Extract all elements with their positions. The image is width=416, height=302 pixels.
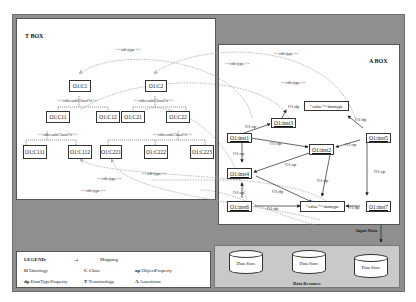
- class-node-c2[interactable]: O1:C2: [145, 80, 167, 92]
- class-node-c112[interactable]: O1:C112: [68, 145, 92, 159]
- dp-label: O1:dp: [348, 205, 359, 210]
- database-icon: [292, 250, 326, 258]
- legend-panel: LEGEND: ⇢ Mapping O Ontology C Class op …: [16, 251, 211, 288]
- class-node-c1[interactable]: O1:C1: [69, 80, 91, 92]
- data-store-2[interactable]: Data Store: [292, 250, 326, 276]
- legend-mapping-arrow-icon: ⇢: [74, 257, 78, 263]
- subclass-label: <<rdfs:subClassOf>>: [134, 98, 173, 103]
- instance-node-inst3[interactable]: O1:inst3: [271, 118, 296, 128]
- input-data-label: Input Data: [356, 228, 377, 233]
- subclass-label: <<rdfs:subClassOf>>: [153, 132, 192, 137]
- subclass-label: <<rdfs:subClassOf>>: [38, 132, 77, 137]
- rdf-type-label: <<rdf:type>>: [281, 80, 305, 85]
- dp-label: O1:dp: [355, 117, 366, 122]
- legend-item-terminology: T Terminology: [84, 279, 114, 284]
- rdf-type-label: <<rdf:type>>: [142, 171, 166, 176]
- op-label: O1:op: [233, 151, 244, 156]
- op-label: O1:op: [270, 141, 281, 146]
- instance-node-inst4[interactable]: O1:inst4: [227, 168, 252, 179]
- instance-node-inst6[interactable]: O1:inst6: [227, 201, 252, 212]
- legend-mapping-label: Mapping: [100, 257, 118, 262]
- dp-label: O1:dp: [267, 206, 278, 211]
- subclass-label: <<rdfs:subClassOf>>: [58, 98, 97, 103]
- tbox-title: T BOX: [25, 33, 43, 39]
- instance-node-inst2[interactable]: O1:inst2: [309, 144, 334, 155]
- op-label: O1:op: [233, 190, 244, 195]
- legend-item-datatypeproperty: dp DataTypeProperty: [24, 279, 67, 284]
- legend-item-ontology: O Ontology: [24, 268, 48, 273]
- rdf-type-label: <<rdf:type>>: [116, 47, 140, 52]
- class-node-c222[interactable]: O1:C222: [144, 145, 168, 159]
- data-store-3[interactable]: Data Store: [354, 254, 388, 280]
- dp-label: O1:dp: [317, 178, 328, 183]
- legend-title: LEGEND:: [24, 257, 47, 262]
- class-node-c12[interactable]: O1:C12: [96, 111, 120, 123]
- class-node-c21[interactable]: O1:C21: [121, 111, 145, 123]
- data-resource-panel: Data Store Data Store Data Store Data Re…: [214, 245, 400, 288]
- op-label: O1:op: [285, 162, 296, 167]
- data-resource-title: Data Resource: [215, 281, 399, 286]
- rdf-type-label: <<rdf:type>>: [274, 51, 298, 56]
- dp-label: O1:dp: [288, 104, 299, 109]
- op-label: O1:op: [245, 124, 256, 129]
- instance-node-inst5[interactable]: O1:inst5: [366, 133, 391, 143]
- class-node-c223[interactable]: O1:C223: [190, 145, 214, 159]
- legend-item-assertions: A Assertions: [135, 279, 161, 284]
- class-node-c111[interactable]: O1:C111: [23, 145, 47, 159]
- rdf-type-label: <<rdf:type>>: [225, 61, 249, 66]
- abox-title: A BOX: [369, 58, 388, 64]
- class-node-c11[interactable]: O1:C11: [46, 111, 70, 123]
- instance-node-inst7[interactable]: O1:inst7: [366, 201, 391, 212]
- legend-item-objectproperty: op ObjectProperty: [135, 268, 172, 273]
- database-icon: [354, 254, 388, 262]
- class-node-c221[interactable]: O1:C221: [100, 145, 122, 159]
- instance-node-inst1[interactable]: O1:inst1: [227, 133, 252, 143]
- rdf-type-label: <<rdf:type>>: [97, 176, 121, 181]
- value-node-2[interactable]: "value"^^datatype: [300, 201, 345, 212]
- legend-item-class: C Class: [84, 268, 100, 273]
- tbox-panel: T BOX: [16, 18, 216, 200]
- rdf-type-label: <<rdf:type>>: [81, 188, 105, 193]
- data-store-1[interactable]: Data Store: [229, 250, 263, 276]
- op-label: O1:op: [374, 169, 385, 174]
- value-node-1[interactable]: "value"^^datatype: [304, 101, 349, 111]
- database-icon: [229, 250, 263, 258]
- dp-label: O1:dp: [272, 189, 283, 194]
- op-label: O1:op: [345, 142, 356, 147]
- class-node-c22[interactable]: O1:C22: [166, 111, 190, 123]
